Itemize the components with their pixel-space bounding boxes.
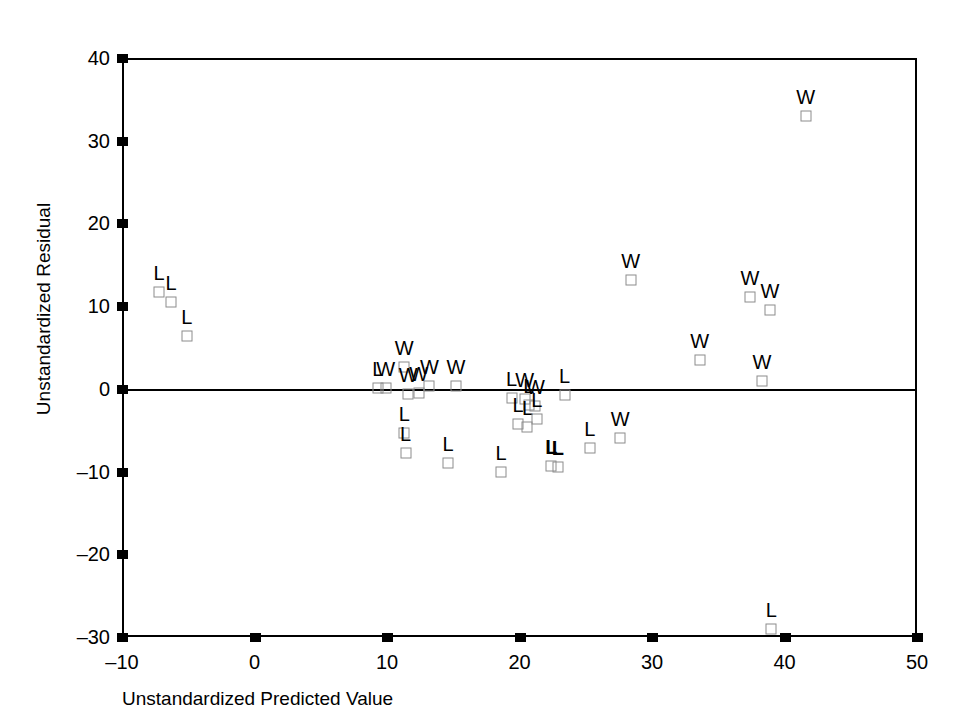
data-point-marker	[756, 376, 767, 387]
data-point-label: L	[531, 390, 542, 410]
data-point-label: W	[796, 87, 815, 107]
data-point-label: W	[446, 357, 465, 377]
data-point-label: L	[584, 419, 595, 439]
data-point-label: L	[165, 273, 176, 293]
data-point-marker	[166, 297, 177, 308]
x-tick-label: 10	[352, 651, 422, 674]
x-tick-mark	[515, 633, 526, 642]
y-tick-mark	[117, 219, 128, 228]
y-tick-label: 40	[50, 47, 110, 70]
data-point-label: W	[621, 251, 640, 271]
data-point-label: L	[559, 366, 570, 386]
x-tick-label: 50	[882, 651, 952, 674]
y-tick-mark	[117, 302, 128, 311]
data-point-label: W	[420, 357, 439, 377]
y-tick-label: –10	[50, 460, 110, 483]
x-tick-label: –10	[87, 651, 157, 674]
data-point-label: L	[552, 438, 564, 458]
x-tick-label: 20	[485, 651, 555, 674]
y-tick-mark	[117, 54, 128, 63]
data-point-marker	[413, 387, 424, 398]
data-point-label: W	[760, 281, 779, 301]
y-tick-label: 0	[50, 377, 110, 400]
data-point-label: L	[400, 424, 411, 444]
data-point-marker	[495, 467, 506, 478]
data-point-marker	[559, 389, 570, 400]
data-point-marker	[764, 305, 775, 316]
y-tick-mark	[117, 137, 128, 146]
y-tick-mark	[117, 550, 128, 559]
data-point-marker	[615, 432, 626, 443]
data-point-marker	[154, 287, 165, 298]
data-point-label: W	[741, 268, 760, 288]
x-tick-label: 40	[750, 651, 820, 674]
y-tick-label: –30	[50, 626, 110, 649]
data-point-marker	[531, 413, 542, 424]
x-tick-mark	[912, 633, 923, 642]
y-tick-label: –20	[50, 543, 110, 566]
data-point-label: L	[766, 600, 777, 620]
data-point-marker	[403, 388, 414, 399]
data-point-marker	[400, 447, 411, 458]
data-point-marker	[424, 380, 435, 391]
y-tick-label: 20	[50, 212, 110, 235]
x-tick-mark	[117, 633, 128, 642]
data-point-marker	[442, 458, 453, 469]
x-tick-mark	[647, 633, 658, 642]
data-point-label: W	[395, 338, 414, 358]
data-point-marker	[694, 354, 705, 365]
data-point-label: W	[690, 331, 709, 351]
x-tick-label: 0	[220, 651, 290, 674]
y-tick-mark	[117, 468, 128, 477]
data-point-label: L	[442, 434, 453, 454]
y-tick-mark	[117, 385, 128, 394]
data-point-label: W	[376, 359, 395, 379]
data-point-label: L	[154, 263, 165, 283]
y-tick-label: 30	[50, 129, 110, 152]
x-axis-title: Unstandardized Predicted Value	[122, 688, 622, 710]
data-point-marker	[450, 380, 461, 391]
data-point-marker	[181, 330, 192, 341]
y-tick-label: 10	[50, 295, 110, 318]
x-tick-mark	[382, 633, 393, 642]
data-point-marker	[625, 274, 636, 285]
data-point-marker	[552, 461, 563, 472]
data-point-marker	[584, 443, 595, 454]
data-point-label: W	[753, 352, 772, 372]
x-tick-mark	[780, 633, 791, 642]
x-tick-mark	[250, 633, 261, 642]
data-point-marker	[380, 383, 391, 394]
data-point-marker	[745, 292, 756, 303]
data-point-label: L	[495, 443, 506, 463]
data-point-marker	[800, 110, 811, 121]
plot-frame	[122, 58, 917, 637]
data-point-marker	[766, 623, 777, 634]
x-tick-label: 30	[617, 651, 687, 674]
data-point-label: W	[611, 409, 630, 429]
data-point-label: L	[399, 404, 410, 424]
data-point-label: L	[181, 307, 192, 327]
scatter-plot: Unstandardized Residual Unstandardized P…	[0, 0, 974, 728]
